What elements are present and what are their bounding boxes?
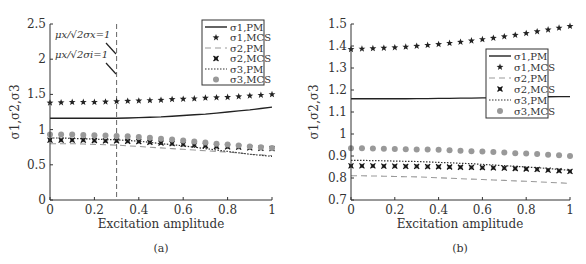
series--1-MCS [47, 91, 276, 106]
star-marker [534, 28, 541, 35]
x-tick-label: 0.4 [129, 203, 148, 217]
star-marker [169, 96, 176, 103]
circle-marker [236, 142, 242, 148]
y-tick-label: 1.3 [328, 61, 347, 75]
series-line [50, 107, 272, 118]
star-marker [512, 31, 519, 38]
star-marker [556, 24, 563, 31]
star-marker [468, 37, 475, 44]
star-marker [446, 40, 453, 47]
star-marker [213, 94, 220, 101]
y-tick-label: 1.1 [328, 105, 347, 119]
legend-label: σ1,MCS [230, 32, 271, 43]
y-axis-label-a: σ1,σ2,σ3 [8, 84, 22, 139]
star-marker [479, 36, 486, 43]
star-marker [380, 44, 387, 51]
star-marker [435, 41, 442, 48]
y-tick-label: 0 [38, 193, 46, 207]
circle-marker [80, 132, 86, 138]
star-marker [269, 91, 276, 98]
star-marker [523, 30, 530, 37]
circle-marker [497, 108, 503, 114]
y-tick-label: 1 [38, 123, 46, 137]
star-marker [58, 99, 65, 106]
x-tick-label: 0.2 [85, 203, 104, 217]
star-marker [424, 42, 431, 49]
x-tick-label: 0.2 [385, 203, 404, 217]
star-marker [490, 34, 497, 41]
circle-marker [523, 151, 529, 157]
y-axis-label-b: σ1,σ2,σ3 [307, 84, 321, 139]
circle-marker [545, 152, 551, 158]
star-marker [369, 45, 376, 52]
circle-marker [247, 143, 253, 149]
legend-label: σ3,MCS [230, 74, 271, 85]
star-marker [359, 45, 366, 52]
circle-marker [147, 135, 153, 141]
legend-label: σ3,PM [514, 95, 547, 106]
star-marker [457, 38, 464, 45]
legend-label: σ1,PM [514, 51, 547, 62]
star-marker [246, 92, 253, 99]
star-marker [69, 99, 76, 106]
star-marker [501, 33, 508, 40]
x-axis-label-b: Excitation amplitude [397, 217, 524, 231]
star-marker [235, 93, 242, 100]
star-marker [202, 94, 209, 101]
x-tick-label: 0.6 [174, 203, 193, 217]
y-tick-label: 0.5 [27, 158, 46, 172]
circle-marker [269, 145, 275, 151]
circle-marker [136, 134, 142, 140]
circle-marker [370, 146, 376, 152]
star-marker [402, 43, 409, 50]
circle-marker [359, 145, 365, 151]
star-marker [391, 44, 398, 51]
legend-label: σ2,PM [514, 73, 547, 84]
star-marker [180, 95, 187, 102]
circle-marker [436, 147, 442, 153]
x-tick-label: 0.8 [517, 203, 536, 217]
y-tick-label: 1.5 [328, 17, 347, 31]
circle-marker [125, 133, 131, 139]
legend-label: σ1,MCS [514, 62, 555, 73]
legend-b: σ1,PMσ1,MCSσ2,PMσ2,MCSσ3,PMσ3,MCS [486, 49, 555, 118]
star-marker [567, 23, 574, 30]
circle-marker [191, 139, 197, 145]
y-tick-label: 0.8 [328, 171, 347, 185]
circle-marker [501, 149, 507, 155]
star-marker [113, 98, 120, 105]
circle-marker [490, 149, 496, 155]
circle-marker [479, 149, 485, 155]
legend-label: σ2,PM [230, 43, 263, 54]
star-marker [413, 42, 420, 49]
circle-marker [225, 141, 231, 147]
series--2-MCS [349, 163, 573, 174]
y-tick-label: 0.7 [328, 193, 347, 207]
caption-a: (a) [153, 242, 168, 255]
circle-marker [425, 147, 431, 153]
circle-marker [169, 136, 175, 142]
y-tick-label: 1.4 [328, 39, 347, 53]
star-marker [124, 97, 131, 104]
circle-marker [69, 132, 75, 138]
circle-marker [392, 146, 398, 152]
circle-marker [381, 146, 387, 152]
circle-marker [458, 148, 464, 154]
series-line [351, 176, 570, 184]
circle-marker [213, 77, 219, 83]
caption-b: (b) [452, 242, 468, 255]
annotation-1: μx/√2σx=1 [55, 29, 110, 40]
star-marker [91, 99, 98, 106]
x-tick-label: 0 [347, 203, 355, 217]
circle-marker [512, 150, 518, 156]
x-tick-label: 0.6 [473, 203, 492, 217]
x-tick-label: 0.8 [218, 203, 237, 217]
star-marker [102, 98, 109, 105]
y-tick-label: 1 [339, 127, 347, 141]
circle-marker [556, 152, 562, 158]
circle-marker [403, 146, 409, 152]
circle-marker [202, 140, 208, 146]
x-tick-label: 0 [46, 203, 54, 217]
star-marker [191, 95, 198, 102]
x-tick-label: 1 [268, 203, 276, 217]
